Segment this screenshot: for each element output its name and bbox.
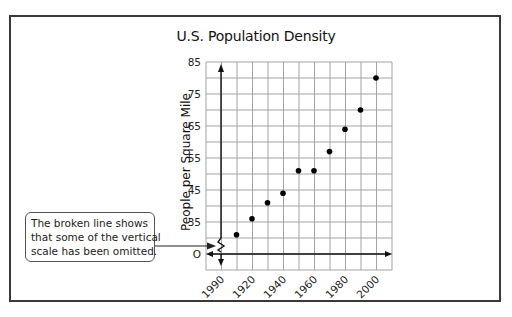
x-tick-label: 1940: [261, 273, 288, 300]
data-point: [311, 168, 317, 174]
data-point: [280, 190, 286, 196]
x-tick-label: 1990: [199, 273, 226, 300]
data-point: [265, 200, 271, 206]
y-axis-up-arrow-icon: [218, 64, 224, 72]
y-axis-title: People per Square Mile: [179, 93, 193, 231]
scatter-plot: 857565554535O 199019201940196019802000 P…: [0, 0, 512, 317]
data-point: [358, 107, 364, 113]
data-point: [342, 126, 348, 132]
data-point: [296, 168, 302, 174]
data-point: [234, 232, 240, 238]
x-axis-left-arrow-icon: [206, 251, 213, 257]
axis-break-icon: [218, 238, 224, 252]
y-axis-down-arrow-icon: [218, 259, 224, 266]
x-tick-label: 2000: [354, 273, 381, 300]
data-point: [373, 75, 379, 81]
y-tick-label: O: [193, 248, 201, 260]
data-point: [249, 216, 255, 222]
y-tick-label: 85: [188, 56, 201, 68]
x-tick-label: 1920: [230, 273, 257, 300]
x-tick-label: 1960: [292, 273, 319, 300]
x-tick-label: 1980: [323, 273, 350, 300]
axis-break-callout: The broken line shows that some of the v…: [25, 212, 155, 262]
x-tick-labels: 199019201940196019802000: [199, 273, 381, 300]
callout-line-1: The broken line shows: [31, 216, 154, 230]
callout-pointer-arrow-icon: [207, 243, 216, 250]
grid-lines: [206, 62, 392, 270]
callout-line-3: scale has been omitted.: [31, 244, 154, 258]
callout-line-2: that some of the vertical: [31, 230, 154, 244]
data-points: [234, 75, 379, 237]
data-point: [327, 149, 333, 155]
x-axis-right-arrow-icon: [385, 251, 392, 257]
